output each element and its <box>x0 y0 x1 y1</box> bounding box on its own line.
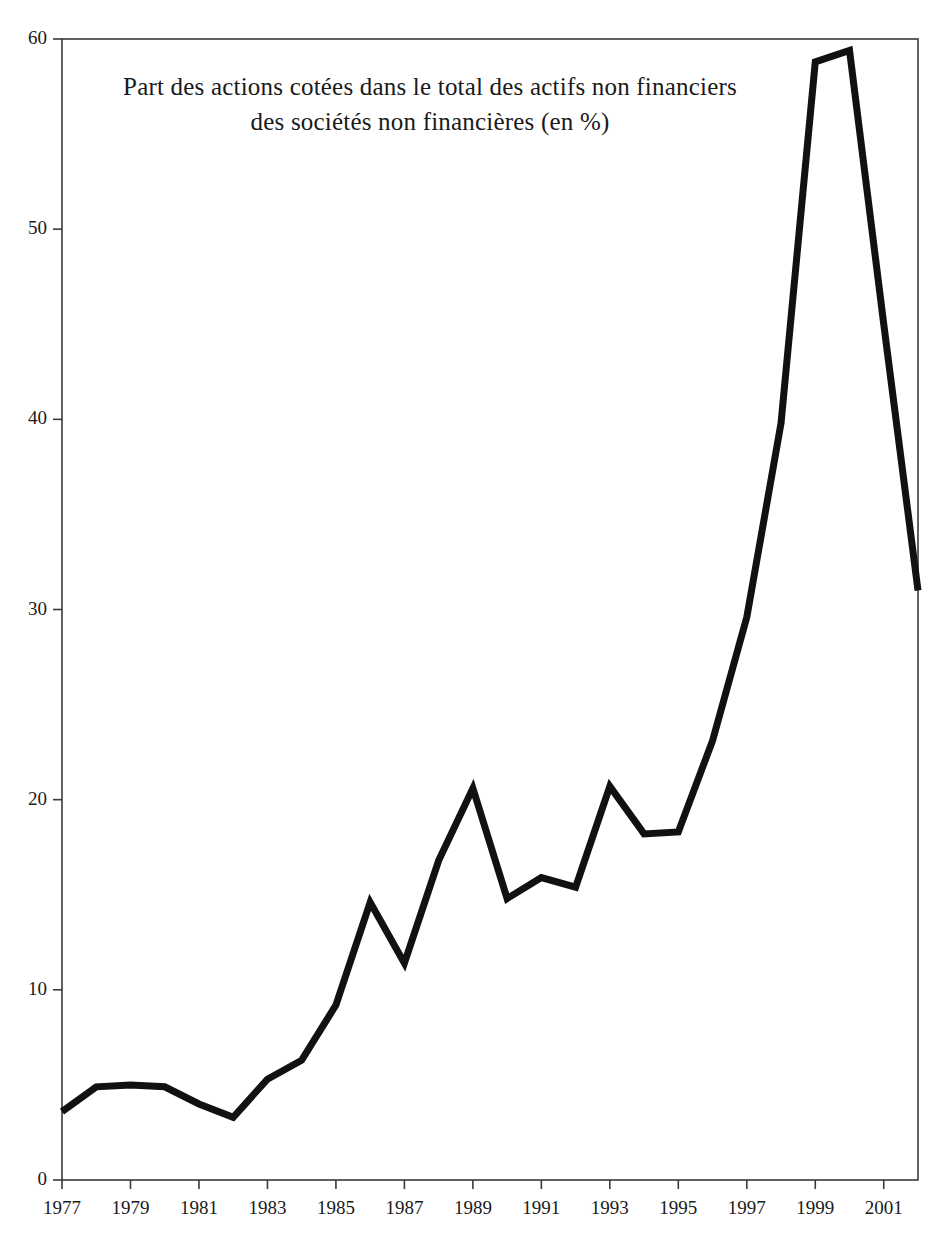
chart-figure: Part des actions cotées dans le total de… <box>0 0 946 1253</box>
x-axis-tick-label: 1979 <box>95 1197 165 1219</box>
x-axis-tick-label: 1997 <box>712 1197 782 1219</box>
plot-frame <box>62 39 918 1180</box>
x-axis-tick-label: 2001 <box>849 1197 919 1219</box>
x-axis-tick-label: 1989 <box>438 1197 508 1219</box>
x-axis-tick-label: 1983 <box>232 1197 302 1219</box>
x-axis-tick-label: 1991 <box>506 1197 576 1219</box>
y-axis-tick-label: 0 <box>4 1168 47 1190</box>
x-axis-tick-label: 1985 <box>301 1197 371 1219</box>
series-line <box>62 50 918 1117</box>
x-axis-tick-label: 1977 <box>27 1197 97 1219</box>
y-axis-tick-label: 20 <box>4 788 47 810</box>
y-axis-tick-label: 10 <box>4 978 47 1000</box>
y-axis-tick-label: 30 <box>4 598 47 620</box>
x-axis-tick-label: 1995 <box>643 1197 713 1219</box>
plot-border <box>62 39 918 1180</box>
y-axis-tick-label: 60 <box>4 27 47 49</box>
chart-plot-area <box>0 0 946 1253</box>
chart-title-line-2: des sociétés non financières (en %) <box>90 105 770 140</box>
x-axis-tick-label: 1999 <box>780 1197 850 1219</box>
y-axis-tick-label: 50 <box>4 217 47 239</box>
chart-title: Part des actions cotées dans le total de… <box>90 70 770 139</box>
x-axis-tick-label: 1987 <box>369 1197 439 1219</box>
y-axis-tick-label: 40 <box>4 407 47 429</box>
data-line <box>62 50 918 1117</box>
x-axis-tick-label: 1981 <box>164 1197 234 1219</box>
axis-ticks <box>53 39 884 1189</box>
chart-title-line-1: Part des actions cotées dans le total de… <box>90 70 770 105</box>
x-axis-tick-label: 1993 <box>575 1197 645 1219</box>
